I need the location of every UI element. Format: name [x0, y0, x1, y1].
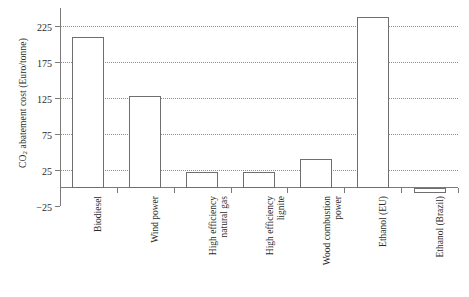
y-axis-tick: 125: [55, 98, 60, 99]
x-axis-tick: [60, 188, 61, 193]
x-axis-tick: [401, 188, 402, 193]
x-axis-category-label: Biodiesel: [93, 196, 104, 232]
x-axis-category-label-line: Wood combustion: [322, 196, 332, 265]
x-axis-category-label-line: High efficiency: [265, 196, 275, 255]
gridline: [60, 134, 458, 135]
gridline: [60, 62, 458, 63]
bar: [243, 172, 275, 188]
y-axis-title-text: CO2 abatement cost (Euro/tonne): [18, 38, 29, 168]
x-axis-category-label-line: Ethanol (Brazil): [435, 196, 445, 257]
y-axis-tick-label: 25: [42, 166, 52, 177]
bar: [129, 96, 161, 188]
y-axis-tick-label: 175: [37, 58, 52, 69]
gridline: [60, 26, 458, 27]
y-axis-tick-label: 125: [37, 94, 52, 105]
gridline: [60, 170, 458, 171]
x-axis-tick: [458, 188, 459, 193]
x-axis-category-label-line: power: [333, 196, 344, 265]
bar: [72, 37, 104, 188]
x-axis-tick: [174, 188, 175, 193]
x-axis-tick: [344, 188, 345, 193]
x-axis-category-label: Wind power: [150, 196, 161, 243]
x-axis-tick: [117, 188, 118, 193]
x-axis-category-label-line: lignite: [276, 196, 287, 255]
y-axis-tick: 75: [55, 134, 60, 135]
x-axis-category-label-line: High efficiency: [208, 196, 218, 255]
y-axis-line: [60, 8, 61, 206]
y-axis-tick: 25: [55, 170, 60, 171]
y-axis-tick-label: 75: [42, 130, 52, 141]
y-axis-tick-label: 225: [37, 22, 52, 33]
plot-area: 2251751257525−25: [60, 8, 458, 188]
x-axis-category-label: High efficiencylignite: [265, 196, 287, 255]
y-axis-title-suffix: abatement cost (Euro/tonne): [18, 38, 28, 151]
y-axis-title-subscript: 2: [21, 150, 29, 154]
y-axis-tick-label: −25: [36, 202, 52, 213]
y-axis-title-prefix: CO: [18, 154, 28, 167]
bar: [357, 17, 389, 188]
x-axis-category-label-line: Ethanol (EU): [378, 196, 388, 247]
x-axis-tick: [231, 188, 232, 193]
x-axis-category-label-line: Wind power: [150, 196, 160, 243]
x-axis-category-label-line: Biodiesel: [93, 196, 103, 232]
x-axis-tick: [287, 188, 288, 193]
gridline: [60, 98, 458, 99]
bar: [300, 159, 332, 188]
bar-chart-figure: CO2 abatement cost (Euro/tonne) 22517512…: [0, 0, 469, 297]
y-axis-tick: −25: [55, 206, 60, 207]
y-axis-title: CO2 abatement cost (Euro/tonne): [14, 10, 32, 195]
bar: [186, 172, 218, 188]
bar: [414, 188, 446, 193]
x-axis-category-label: Ethanol (EU): [378, 196, 389, 247]
x-axis-category-label: High efficiencynatural gas: [208, 196, 230, 255]
y-axis-tick: 175: [55, 62, 60, 63]
x-axis-category-label: Ethanol (Brazil): [435, 196, 446, 257]
y-axis-tick: 225: [55, 26, 60, 27]
x-axis-category-label-line: natural gas: [219, 196, 230, 255]
x-axis-category-label: Wood combustionpower: [322, 196, 344, 265]
